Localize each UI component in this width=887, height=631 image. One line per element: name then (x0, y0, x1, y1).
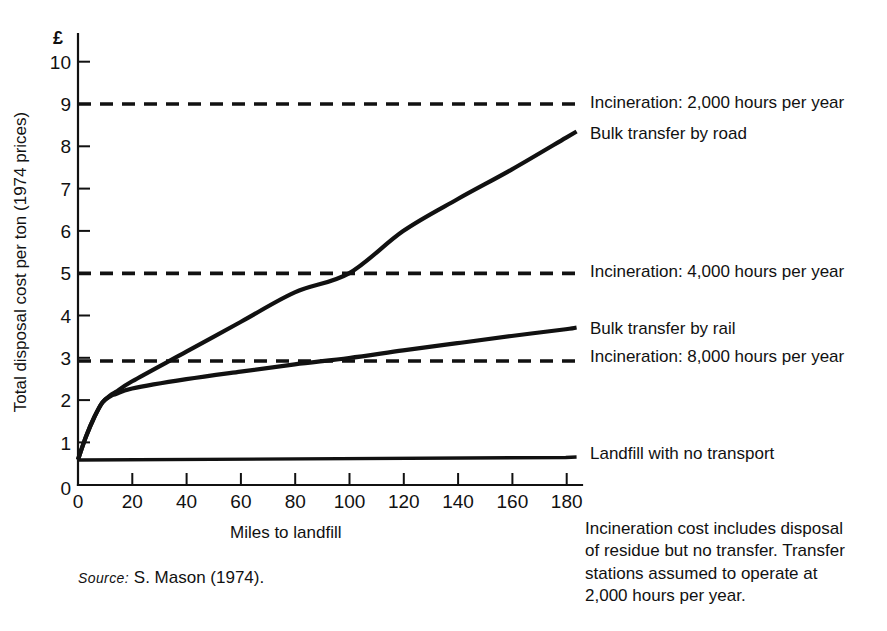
chart-figure: 10 9 8 7 6 5 4 3 2 1 0 £ (0, 0, 887, 631)
y-ticklabel-7: 7 (60, 179, 71, 200)
x-ticklabel-80: 80 (285, 491, 306, 512)
y-ticklabel-1: 1 (60, 433, 71, 454)
note-line-1: Incineration cost includes disposal (585, 518, 880, 540)
x-ticklabel-40: 40 (176, 491, 197, 512)
y-ticklabel-3: 3 (60, 348, 71, 369)
y-ticks-group (78, 62, 90, 443)
y-ticklabel-10: 10 (50, 52, 71, 73)
x-ticklabel-60: 60 (230, 491, 251, 512)
note-line-3: stations assumed to operate at (585, 563, 880, 585)
x-ticklabel-180: 180 (551, 491, 583, 512)
note-line-2: of residue but no transfer. Transfer (585, 540, 880, 562)
y-ticklabel-4: 4 (60, 306, 71, 327)
series-label-landfill: Landfill with no transport (590, 445, 774, 464)
series-label-bulk-road: Bulk transfer by road (590, 125, 747, 144)
y-ticklabel-2: 2 (60, 390, 71, 411)
series-label-incineration-4000: Incineration: 4,000 hours per year (590, 263, 844, 282)
series-group (78, 104, 582, 460)
source-credit: Source: S. Mason (1974). (78, 568, 264, 588)
x-axis-title: Miles to landfill (230, 523, 342, 542)
x-ticklabel-160: 160 (497, 491, 529, 512)
series-bulk-transfer-rail (78, 328, 577, 460)
y-axis-title: Total disposal cost per ton (1974 prices… (11, 112, 30, 413)
series-label-bulk-rail: Bulk transfer by rail (590, 320, 736, 339)
x-ticklabel-140: 140 (442, 491, 474, 512)
x-ticklabel-20: 20 (122, 491, 143, 512)
series-bulk-transfer-road (78, 132, 577, 460)
y-ticklabels-group: 10 9 8 7 6 5 4 3 2 1 0 (50, 52, 72, 499)
note-line-4: 2,000 hours per year. (585, 585, 880, 607)
source-keyword: Source: (78, 570, 129, 586)
x-ticklabel-100: 100 (334, 491, 366, 512)
y-ticklabel-6: 6 (60, 221, 71, 242)
currency-symbol: £ (53, 28, 63, 48)
incineration-note: Incineration cost includes disposal of r… (585, 518, 880, 608)
source-text: S. Mason (1974). (134, 568, 264, 587)
y-ticklabel-5: 5 (60, 263, 71, 284)
y-ticklabel-8: 8 (60, 136, 71, 157)
series-label-incineration-8000: Incineration: 8,000 hours per year (590, 348, 844, 367)
series-label-incineration-2000: Incineration: 2,000 hours per year (590, 94, 844, 113)
y-ticklabel-9: 9 (60, 94, 71, 115)
axes-group (78, 34, 582, 485)
x-ticklabels-group: 0 20 40 60 80 100 120 140 160 180 (73, 491, 583, 512)
x-ticklabel-120: 120 (388, 491, 420, 512)
y-ticklabel-0: 0 (60, 478, 71, 499)
x-ticks-group (78, 473, 567, 485)
x-ticklabel-0: 0 (73, 491, 84, 512)
series-landfill-no-transport (78, 457, 577, 460)
